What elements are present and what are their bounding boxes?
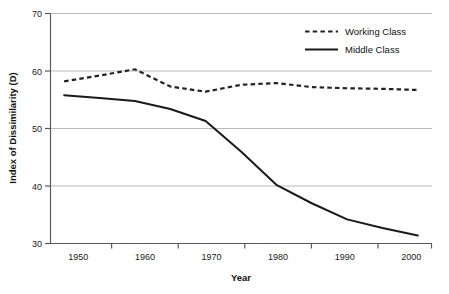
x-tick-label-1970: 1970: [201, 252, 221, 262]
x-tick-label-1980: 1980: [268, 252, 288, 262]
legend-label-middle-class: Middle Class: [345, 44, 400, 55]
x-tick-label-1960: 1960: [135, 252, 155, 262]
x-tick-label-1990: 1990: [335, 252, 355, 262]
x-axis-tick-labels: 1950 1960 1970 1980 1990 2000: [68, 252, 421, 262]
y-tick-label-70: 70: [32, 9, 42, 19]
x-axis-ticks: [112, 244, 432, 249]
y-tick-label-30: 30: [32, 239, 42, 249]
y-axis-ticks: [45, 14, 50, 244]
chart-legend: Working Class Middle Class: [305, 26, 406, 55]
series-line-middle-class: [64, 95, 418, 235]
x-axis-title: Year: [231, 272, 251, 283]
y-axis-title: Index of Dissimilarity (D): [7, 72, 18, 183]
x-tick-label-1950: 1950: [68, 252, 88, 262]
y-tick-label-60: 60: [32, 67, 42, 77]
y-axis-tick-labels: 70 60 50 40 30: [32, 9, 42, 249]
x-tick-label-2000: 2000: [401, 252, 421, 262]
chart-figure: 70 60 50 40 30 1950 1960 1970 1980 1990 …: [0, 0, 449, 294]
line-chart: 70 60 50 40 30 1950 1960 1970 1980 1990 …: [0, 0, 449, 294]
legend-label-working-class: Working Class: [345, 26, 406, 37]
series-line-working-class: [64, 69, 418, 91]
y-tick-label-50: 50: [32, 124, 42, 134]
gridlines: [50, 14, 432, 187]
y-tick-label-40: 40: [32, 182, 42, 192]
